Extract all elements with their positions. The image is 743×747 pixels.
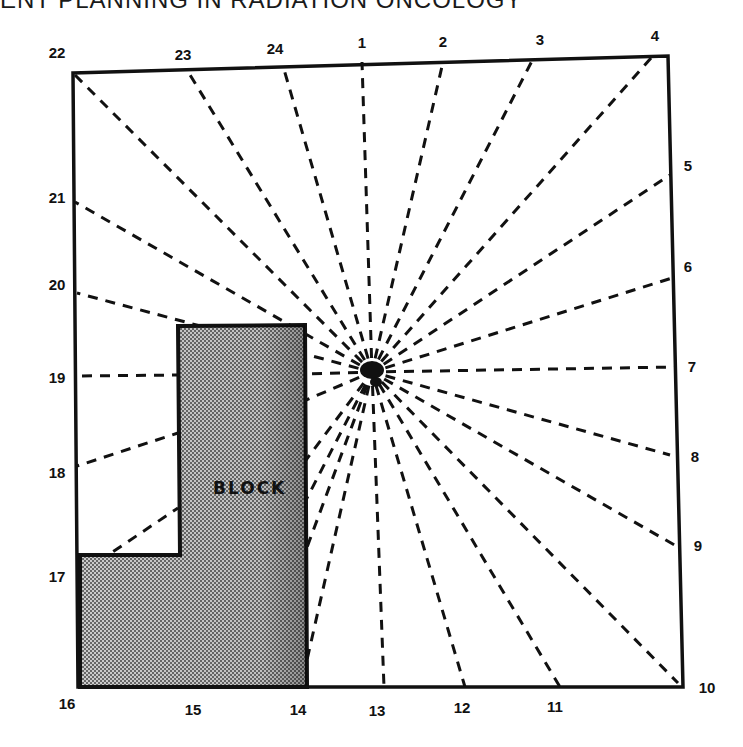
point-label-5: 5 [684,157,692,174]
block: BLOCK [80,325,307,687]
ray-18 [77,433,178,466]
source-point [360,361,384,387]
ray-9 [372,372,678,547]
point-label-2: 2 [439,33,447,50]
point-label-13: 13 [369,702,386,719]
point-label-16: 16 [59,695,76,712]
point-label-20: 20 [49,276,66,293]
ray-19 [77,375,178,376]
point-label-15: 15 [185,701,202,718]
ray-17 [108,508,178,555]
ray-13 [372,372,384,687]
point-label-18: 18 [49,464,66,481]
ray-6 [372,278,672,372]
ray-12 [372,372,465,687]
point-label-19: 19 [49,369,66,386]
ray-1 [362,62,372,372]
point-label-10: 10 [699,679,716,696]
point-label-17: 17 [49,568,66,585]
point-label-9: 9 [694,537,702,554]
block-shading [80,325,307,687]
ray-8 [372,372,670,455]
point-label-24: 24 [267,40,284,57]
point-label-11: 11 [547,698,563,715]
point-label-12: 12 [454,699,471,716]
ray-2 [372,62,443,372]
ray-16 [306,372,372,500]
point-label-21: 21 [49,189,66,206]
ray-11 [372,372,560,687]
point-label-7: 7 [688,358,696,375]
ray-5 [372,175,670,372]
point-label-22: 22 [49,44,66,61]
point-label-6: 6 [684,258,692,275]
ray-7 [372,367,675,372]
point-label-3: 3 [536,31,544,48]
point-label-1: 1 [358,34,366,51]
point-label-4: 4 [651,27,660,44]
block-label: BLOCK [213,478,286,498]
point-label-14: 14 [290,701,307,718]
ray-15 [306,372,372,550]
point-label-23: 23 [175,46,192,63]
ray-3 [372,59,533,372]
beam-diagram: BLOCK 1234567891011121314151617181920212… [0,0,743,747]
point-label-8: 8 [691,448,699,465]
